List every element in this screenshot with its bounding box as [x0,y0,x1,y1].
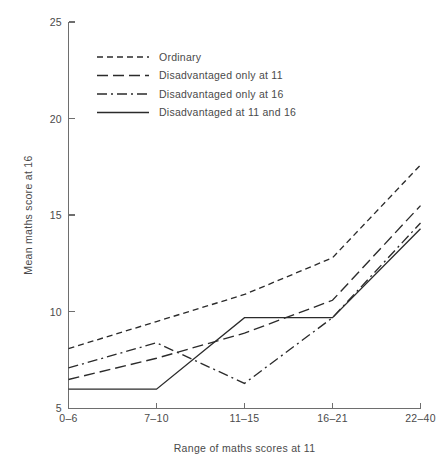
chart-legend: OrdinaryDisadvantaged only at 11Disadvan… [97,51,296,119]
series-line-0 [69,165,421,349]
chart-container: 25 20 15 10 5 0–6 7–10 11–15 16–21 22–40… [0,0,447,473]
line-chart: 25 20 15 10 5 0–6 7–10 11–15 16–21 22–40… [0,0,447,473]
y-tick-label-10: 10 [50,306,62,318]
x-tick-group [69,403,421,409]
y-tick-label-15: 15 [50,209,62,221]
x-tick-label-1: 7–10 [144,412,169,424]
y-tick-label-20: 20 [50,113,62,125]
legend-label-1: Disadvantaged only at 11 [159,69,283,81]
x-tick-label-3: 16–21 [317,412,348,424]
legend-label-0: Ordinary [159,51,202,63]
x-tick-label-4: 22–40 [405,412,436,424]
legend-label-3: Disadvantaged at 11 and 16 [159,106,296,118]
legend-label-2: Disadvantaged only at 16 [159,88,284,100]
y-axis-title: Mean maths score at 16 [22,155,34,274]
x-tick-label-0: 0–6 [59,412,77,424]
x-axis-title: Range of maths scores at 11 [174,442,316,454]
y-tick-group [69,22,75,312]
series-line-2 [69,223,421,383]
x-tick-label-2: 11–15 [230,412,260,424]
series-group [69,165,421,389]
series-line-3 [69,229,421,389]
y-tick-label-25: 25 [50,16,62,28]
